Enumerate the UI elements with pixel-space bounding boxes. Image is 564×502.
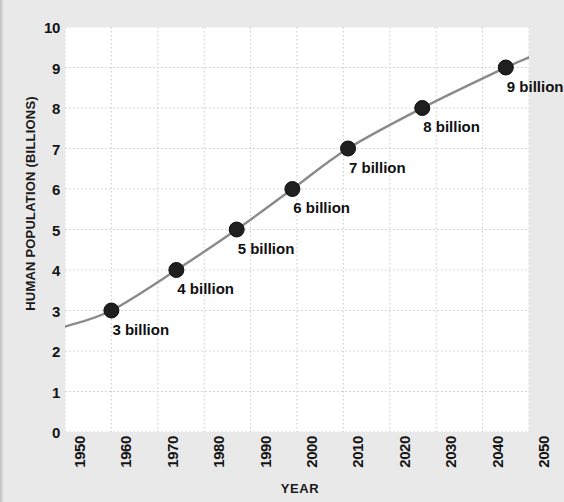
x-tick-2020: 2020 <box>396 436 413 468</box>
x-tick-2000: 2000 <box>303 436 320 468</box>
point-label-6-billion: 6 billion <box>293 199 350 216</box>
y-tick-9: 9 <box>22 59 60 76</box>
x-tick-1980: 1980 <box>210 436 227 468</box>
point-label-3-billion: 3 billion <box>112 321 169 338</box>
point-label-5-billion: 5 billion <box>238 240 295 257</box>
x-tick-2040: 2040 <box>489 436 506 468</box>
x-axis-title: YEAR <box>0 481 564 496</box>
x-tick-2050: 2050 <box>535 436 552 468</box>
x-tick-1970: 1970 <box>164 436 181 468</box>
plot-area <box>65 27 529 432</box>
x-tick-2030: 2030 <box>442 436 459 468</box>
x-tick-2010: 2010 <box>349 436 366 468</box>
y-tick-2: 2 <box>22 343 60 360</box>
human-population-growth-chart: 012345678910 HUMAN POPULATION (BILLIONS)… <box>0 0 564 502</box>
point-label-4-billion: 4 billion <box>177 280 234 297</box>
x-tick-1990: 1990 <box>257 436 274 468</box>
point-label-9-billion: 9 billion <box>507 78 564 95</box>
y-tick-10: 10 <box>22 19 60 36</box>
point-label-8-billion: 8 billion <box>423 118 480 135</box>
y-tick-1: 1 <box>22 383 60 400</box>
x-tick-1960: 1960 <box>117 436 134 468</box>
point-label-7-billion: 7 billion <box>349 159 406 176</box>
y-axis-title: HUMAN POPULATION (BILLIONS) <box>23 84 38 324</box>
y-tick-0: 0 <box>22 424 60 441</box>
x-tick-1950: 1950 <box>71 436 88 468</box>
data-series-layer <box>65 27 529 432</box>
